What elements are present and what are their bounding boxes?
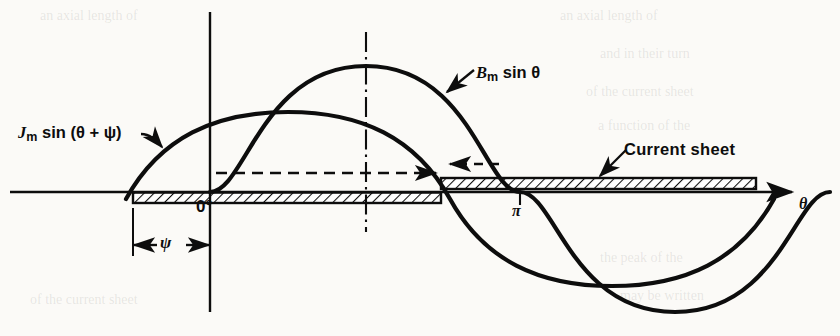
label-current-sheet: Current sheet — [624, 141, 735, 158]
diagram-canvas — [0, 0, 840, 336]
label-bm-sin-theta: Bm sin θ — [476, 64, 540, 83]
jm-label-leader — [141, 134, 162, 147]
current-sheet-band-1 — [133, 193, 441, 204]
label-pi: π — [512, 203, 521, 219]
label-bm-symbol: B — [476, 63, 487, 82]
label-jm-expression: sin (θ + ψ) — [37, 123, 121, 141]
label-psi-dimension: ψ — [160, 234, 171, 251]
bm-label-leader — [447, 70, 474, 92]
label-jm-subscript: m — [26, 130, 37, 144]
current-sheet-band-2 — [441, 178, 756, 189]
label-axis-theta: θ — [799, 196, 807, 212]
label-origin-degrees: 0° — [196, 198, 212, 215]
label-bm-subscript: m — [487, 70, 498, 84]
label-jm-symbol: J — [18, 123, 26, 142]
label-jm-sin-theta-plus-psi: Jm sin (θ + ψ) — [18, 124, 122, 143]
current-sheet-label-leader — [600, 150, 626, 176]
label-bm-expression: sin θ — [498, 63, 540, 81]
figure-current-sheet: an axial length of and in their turn of … — [0, 0, 840, 336]
